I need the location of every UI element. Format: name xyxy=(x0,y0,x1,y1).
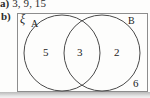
venn-diagram-answer-figure: a) 3, 9, 15 b) ξ A B 5 3 2 6 xyxy=(0,0,150,98)
universal-set-symbol: ξ xyxy=(20,13,25,26)
set-a-label: A xyxy=(31,19,38,29)
scan-edge-artifact xyxy=(0,92,150,98)
part-a-values: 3, 9, 15 xyxy=(12,0,46,9)
region-count-b-only: 2 xyxy=(114,47,120,57)
region-count-outside: 6 xyxy=(133,78,139,88)
region-count-a-only: 5 xyxy=(43,47,49,57)
set-b-label: B xyxy=(128,16,135,26)
part-a-label: a) xyxy=(0,0,9,9)
region-count-intersection: 3 xyxy=(77,47,83,57)
part-a-answer-line: a) 3, 9, 15 xyxy=(0,0,150,9)
part-b-label: b) xyxy=(1,10,11,22)
set-b-circle xyxy=(64,15,140,91)
